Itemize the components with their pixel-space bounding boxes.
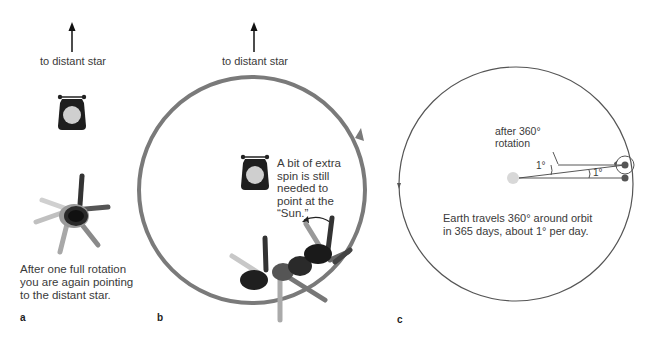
caption-a: After one full rotation you are again po…: [20, 263, 133, 302]
orbit-direction-arrow-b: [355, 128, 364, 141]
panel-letter-c: c: [397, 314, 403, 325]
star-arrow-b: [251, 22, 258, 52]
spinning-figure-a: [36, 176, 108, 252]
lamp-icon-b: [241, 155, 269, 190]
panel-letter-a: a: [20, 312, 26, 323]
angle-lines-c: [519, 152, 625, 178]
caption-c: Earth travels 360° around orbit in 365 d…: [443, 212, 592, 238]
rotation-label-c: after 360° rotation: [495, 125, 541, 149]
star-label-b: to distant star: [222, 55, 288, 67]
orbit-c: [397, 67, 633, 301]
orbit-direction-arrow-c: [397, 183, 401, 189]
sun-dot-c: [507, 172, 519, 184]
angle-label-left: 1°: [536, 160, 546, 172]
angle-label-right: 1°: [593, 167, 603, 179]
lamp-icon-a: [58, 95, 86, 130]
star-label-a: to distant star: [40, 55, 106, 67]
caption-b: A bit of extra spin is still needed to p…: [277, 157, 341, 220]
panel-letter-b: b: [157, 312, 163, 323]
star-arrow-a: [69, 22, 76, 52]
